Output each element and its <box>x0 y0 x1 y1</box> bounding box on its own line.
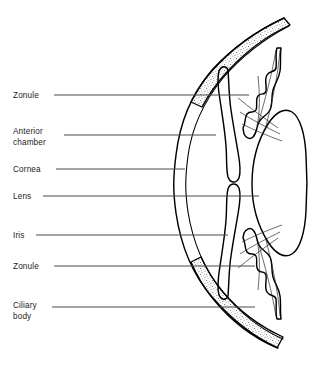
label-iris: Iris <box>13 231 25 240</box>
iris-lower-shape <box>218 184 240 299</box>
ciliary-processes-lower <box>243 229 281 319</box>
lens-capsule <box>252 110 307 256</box>
label-line: Lens <box>13 192 31 201</box>
label-anterior-chamber: Anteriorchamber <box>13 127 46 147</box>
label-line: chamber <box>13 138 46 147</box>
label-ciliary-body: Ciliarybody <box>13 301 38 321</box>
label-line: Zonule <box>13 91 39 100</box>
zonule-fibers-lower <box>238 225 282 316</box>
label-line: Anterior <box>13 127 43 136</box>
label-zonule-upper: Zonule <box>13 91 39 100</box>
leader-lines <box>36 95 259 307</box>
label-lens: Lens <box>13 192 31 201</box>
label-line: Zonule <box>13 262 39 271</box>
label-texts: ZonuleAnteriorchamberCorneaLensIrisZonul… <box>13 91 46 321</box>
label-line: body <box>13 312 32 321</box>
eye-anatomy-figure: ZonuleAnteriorchamberCorneaLensIrisZonul… <box>0 0 315 366</box>
sclera-lower <box>191 257 283 348</box>
ciliary-body-lower <box>243 229 281 319</box>
eye-diagram-canvas: ZonuleAnteriorchamberCorneaLensIrisZonul… <box>0 0 315 366</box>
label-line: Iris <box>13 231 25 240</box>
label-zonule-lower: Zonule <box>13 262 39 271</box>
sclera-upper-band <box>191 18 290 107</box>
label-cornea: Cornea <box>13 165 41 174</box>
iris-upper-shape <box>218 67 240 182</box>
iris-lower <box>218 184 240 299</box>
iris-upper <box>218 67 240 182</box>
sclera-lower-band <box>191 257 283 348</box>
sclera-upper <box>191 18 290 107</box>
label-line: Cornea <box>13 165 41 174</box>
label-line: Ciliary <box>13 301 38 310</box>
cornea-inner-arc <box>186 26 289 339</box>
lens-group <box>252 110 307 256</box>
